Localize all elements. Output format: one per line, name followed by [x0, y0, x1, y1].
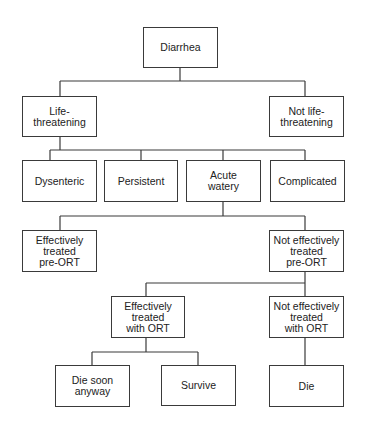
node-not-effectively-treated-pre-ort: Not effectively treated pre-ORT: [269, 230, 344, 272]
node-persistent: Persistent: [104, 160, 178, 202]
node-label: Dysenteric: [35, 176, 85, 187]
node-label: Life- threatening: [33, 106, 86, 128]
node-complicated: Complicated: [270, 160, 345, 202]
node-label: Die: [299, 381, 315, 392]
node-label: Diarrhea: [160, 42, 200, 53]
node-not-effectively-treated-with-ort: Not effectively treated with ORT: [269, 296, 344, 338]
node-label: Acute watery: [208, 170, 239, 192]
node-die: Die: [269, 365, 344, 407]
node-label: Complicated: [278, 176, 336, 187]
node-label: Survive: [181, 380, 216, 391]
node-dysenteric: Dysenteric: [22, 160, 97, 202]
node-survive: Survive: [161, 365, 236, 406]
node-life-threatening: Life- threatening: [22, 96, 97, 137]
node-label: Persistent: [118, 176, 165, 187]
node-label: Not effectively treated with ORT: [274, 301, 340, 334]
node-die-soon-anyway: Die soon anyway: [55, 365, 130, 407]
node-diarrhea: Diarrhea: [143, 27, 218, 68]
decision-tree-diagram: Diarrhea Life- threatening Not life- thr…: [0, 0, 368, 435]
node-label: Die soon anyway: [72, 375, 113, 397]
node-label: Not life- threatening: [280, 106, 333, 128]
node-effectively-treated-with-ort: Effectively treated with ORT: [111, 296, 185, 338]
node-label: Effectively treated pre-ORT: [36, 235, 84, 268]
node-effectively-treated-pre-ort: Effectively treated pre-ORT: [22, 230, 97, 272]
node-label: Effectively treated with ORT: [124, 301, 172, 334]
node-acute-watery: Acute watery: [186, 160, 261, 202]
node-label: Not effectively treated pre-ORT: [274, 235, 340, 268]
node-not-life-threatening: Not life- threatening: [269, 96, 344, 137]
